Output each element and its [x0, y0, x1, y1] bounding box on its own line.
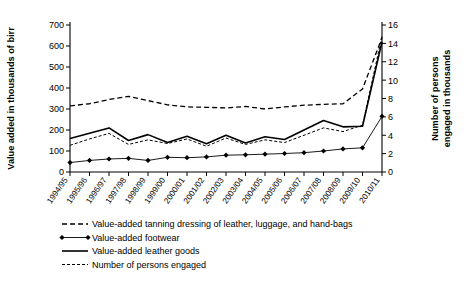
series-line-3 — [70, 36, 382, 146]
y-axis-title-left: Value added in thousands of birr — [6, 27, 16, 170]
y-axis-title-right: Number of persons — [430, 56, 440, 140]
legend-item: Number of persons engaged — [62, 260, 206, 270]
series-marker-1 — [340, 146, 345, 151]
legend-label: Value-added leather goods — [92, 246, 200, 256]
series-marker-1 — [262, 152, 267, 157]
series-marker-1 — [379, 114, 384, 119]
series-marker-1 — [282, 151, 287, 156]
series-marker-1 — [145, 158, 150, 163]
series-marker-1 — [87, 158, 92, 163]
legend-label: Value-added footwear — [92, 233, 179, 243]
series-marker-1 — [126, 156, 131, 161]
series-marker-1 — [301, 150, 306, 155]
y-tick-label-right: 16 — [388, 20, 398, 30]
series-marker-1 — [223, 153, 228, 158]
y-axis-title-right-2: engaged in thousands — [442, 50, 452, 148]
series-marker-1 — [204, 154, 209, 159]
y-tick-label-left: 300 — [49, 104, 64, 114]
y-tick-label-right: 4 — [388, 131, 393, 141]
y-tick-label-right: 0 — [388, 167, 393, 177]
legend-label: Number of persons engaged — [92, 260, 206, 270]
y-tick-label-left: 100 — [49, 146, 64, 156]
y-tick-label-left: 700 — [49, 20, 64, 30]
y-tick-label-right: 8 — [388, 94, 393, 104]
legend-swatch-diamond — [59, 235, 64, 240]
legend-swatch-diamond — [85, 235, 90, 240]
y-tick-label-right: 6 — [388, 112, 393, 122]
series-line-2 — [70, 42, 382, 144]
legend-label: Value-added tanning dressing of leather,… — [92, 219, 353, 229]
y-tick-label-right: 10 — [388, 76, 398, 86]
y-tick-label-right: 2 — [388, 149, 393, 159]
y-tick-label-left: 500 — [49, 62, 64, 72]
y-tick-label-right: 14 — [388, 39, 398, 49]
series-marker-1 — [67, 160, 72, 165]
series-marker-1 — [184, 155, 189, 160]
legend-item: Value-added leather goods — [62, 246, 200, 256]
line-chart: 010020030040050060070002468101214161994/… — [0, 0, 466, 286]
y-tick-label-left: 400 — [49, 83, 64, 93]
series-marker-1 — [165, 155, 170, 160]
series-marker-1 — [360, 145, 365, 150]
series-line-0 — [70, 38, 382, 109]
series-marker-1 — [106, 156, 111, 161]
x-tick-label: 2010/11 — [358, 176, 382, 205]
series-marker-1 — [243, 152, 248, 157]
legend-item: Value-added footwear — [59, 233, 179, 243]
y-tick-label-left: 200 — [49, 125, 64, 135]
legend-item: Value-added tanning dressing of leather,… — [62, 219, 353, 229]
chart-container: 010020030040050060070002468101214161994/… — [0, 0, 466, 286]
series-marker-1 — [321, 148, 326, 153]
y-tick-label-left: 600 — [49, 41, 64, 51]
y-tick-label-right: 12 — [388, 57, 398, 67]
